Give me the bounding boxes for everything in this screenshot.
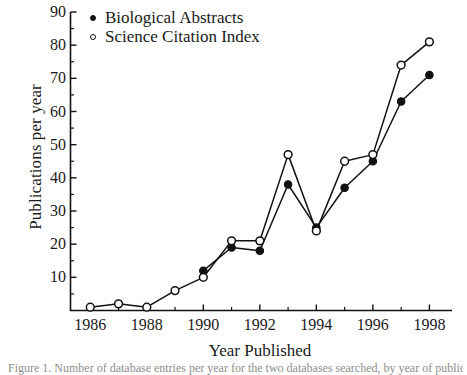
y-axis-tick-label: 70 [32, 70, 66, 86]
y-axis-tick-label: 40 [32, 170, 66, 186]
data-point-marker [341, 157, 349, 165]
y-axis-tick-label: 90 [32, 4, 66, 20]
data-point-marker [426, 71, 433, 78]
data-point-marker [284, 181, 291, 188]
data-point-marker [256, 247, 263, 254]
axis-spines [71, 12, 453, 311]
y-axis-tick-label: 30 [32, 203, 66, 219]
legend-item-science-citation-index: Science Citation Index [88, 27, 318, 46]
y-axis-tick-label: 60 [32, 104, 66, 120]
data-point-marker [199, 273, 207, 281]
legend-label-biological-abstracts: Biological Abstracts [102, 8, 243, 27]
series-line-1 [90, 42, 429, 307]
legend-label-science-citation-index: Science Citation Index [102, 27, 260, 46]
data-point-marker [115, 300, 123, 308]
data-point-marker [86, 303, 94, 311]
data-point-marker [341, 184, 348, 191]
data-point-marker [369, 151, 377, 159]
data-point-marker [397, 61, 405, 69]
data-point-marker [171, 287, 179, 295]
chart-legend: Biological Abstracts Science Citation In… [88, 8, 318, 46]
data-point-marker [143, 303, 151, 311]
y-axis-tick-label: 10 [32, 269, 66, 285]
y-axis-tick-label: 20 [32, 236, 66, 252]
data-point-marker [284, 151, 292, 159]
data-point-marker [256, 237, 264, 245]
data-point-marker [312, 227, 320, 235]
legend-item-biological-abstracts: Biological Abstracts [88, 8, 318, 27]
x-axis-title: Year Published [70, 341, 450, 361]
data-point-marker [397, 98, 404, 105]
open-circle-marker-icon [88, 27, 102, 46]
figure-caption: Figure 1. Number of database entries per… [8, 362, 463, 375]
data-point-marker [425, 38, 433, 46]
y-axis-tick-label: 50 [32, 137, 66, 153]
filled-circle-marker-icon [88, 8, 102, 27]
data-point-marker [228, 237, 236, 245]
x-axis-tick-label: 1998 [394, 316, 464, 334]
y-axis-tick-label: 80 [32, 37, 66, 53]
